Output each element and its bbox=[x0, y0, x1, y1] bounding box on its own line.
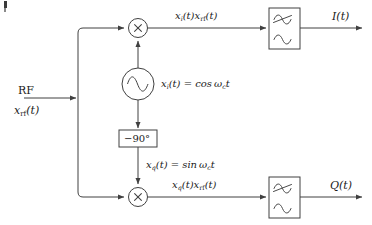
rf-input-label: RF bbox=[18, 85, 34, 96]
phase-shifter-label: −90° bbox=[124, 134, 150, 144]
osc-eq-t: t bbox=[226, 78, 230, 89]
rf-branch-to-q-mixer bbox=[78, 103, 124, 197]
rf-signal-label: xrf(t) bbox=[14, 105, 39, 117]
i-product-label: xi(t)xrf(t) bbox=[175, 11, 217, 22]
oscillator-equation-label: xi(t) = cos ωct bbox=[161, 79, 230, 90]
quad-eq-rest: (t) = sin bbox=[156, 159, 197, 170]
quad-eq-omega: ω bbox=[199, 159, 207, 170]
i-product-tail: (t) bbox=[206, 10, 218, 21]
osc-eq-omega: ω bbox=[214, 78, 222, 89]
rf-branch-to-i-mixer bbox=[78, 28, 124, 93]
rf-signal-tail: (t) bbox=[26, 104, 39, 117]
q-product-tail: (t) bbox=[205, 179, 217, 190]
quadrature-equation-label: xq(t) = sin ωct bbox=[146, 160, 215, 171]
i-output-label: I(t) bbox=[332, 11, 349, 22]
q-product-mid: (t)x bbox=[182, 179, 199, 190]
i-product-mid: (t)x bbox=[183, 10, 200, 21]
q-product-label: xq(t)xrf(t) bbox=[172, 180, 216, 191]
osc-eq-rest: (t) = cos bbox=[169, 78, 212, 89]
quad-eq-t: t bbox=[211, 159, 215, 170]
q-output-label: Q(t) bbox=[330, 180, 352, 191]
iq-demodulator-diagram bbox=[0, 0, 372, 225]
